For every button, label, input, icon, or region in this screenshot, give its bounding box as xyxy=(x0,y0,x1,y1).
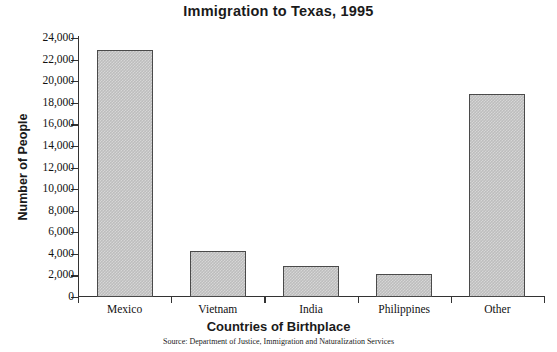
x-axis-tick-mark xyxy=(78,297,79,303)
bar-philippines xyxy=(376,274,432,297)
y-axis-tick-label: 24,000 xyxy=(42,30,74,45)
bar-vietnam xyxy=(190,251,246,297)
bar-mexico xyxy=(97,50,153,297)
y-axis-tick-label: 14,000 xyxy=(42,138,74,153)
y-axis-tick-label: 12,000 xyxy=(42,160,74,175)
y-axis-tick-label: 18,000 xyxy=(42,95,74,110)
source-note: Source: Department of Justice, Immigrati… xyxy=(0,337,557,346)
y-axis-title: Number of People xyxy=(16,92,30,242)
y-axis-tick-label: 6,000 xyxy=(48,224,74,239)
y-axis-tick-label: 22,000 xyxy=(42,52,74,67)
x-axis-label-other: Other xyxy=(437,303,557,315)
y-axis-tick-label: 4,000 xyxy=(48,246,74,261)
y-axis-tick-label: 20,000 xyxy=(42,73,74,88)
x-axis-tick-mark xyxy=(544,297,545,303)
x-axis-tick-mark xyxy=(264,297,265,303)
y-axis-tick-label: 10,000 xyxy=(42,181,74,196)
y-axis-tick-label: 0 xyxy=(68,289,74,304)
y-axis-tick-label: 8,000 xyxy=(48,203,74,218)
x-axis-tick-mark xyxy=(451,297,452,303)
x-axis-tick-mark xyxy=(171,297,172,303)
x-axis-title: Countries of Birthplace xyxy=(0,319,557,334)
plot-area: 02,0004,0006,0008,00010,00012,00014,0001… xyxy=(78,38,544,297)
bar-india xyxy=(283,266,339,297)
x-axis-tick-mark xyxy=(358,297,359,303)
bar-chart-figure: Immigration to Texas, 1995 Number of Peo… xyxy=(0,0,557,352)
chart-title: Immigration to Texas, 1995 xyxy=(0,3,557,19)
y-axis-tick-label: 2,000 xyxy=(48,267,74,282)
y-axis-tick-label: 16,000 xyxy=(42,116,74,131)
bar-other xyxy=(469,94,525,297)
